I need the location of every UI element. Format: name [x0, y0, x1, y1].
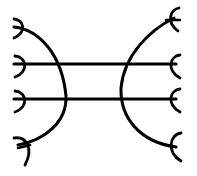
- left-hook-3-icon: [15, 91, 25, 112]
- glyph-diagram: [0, 0, 197, 176]
- right-fork-1-icon: [166, 8, 180, 31]
- right-fork-2-icon: [171, 55, 180, 78]
- right-arc: [121, 18, 176, 147]
- glyph-svg: [0, 0, 197, 176]
- left-hook-2-icon: [15, 56, 25, 77]
- left-arc: [14, 27, 66, 145]
